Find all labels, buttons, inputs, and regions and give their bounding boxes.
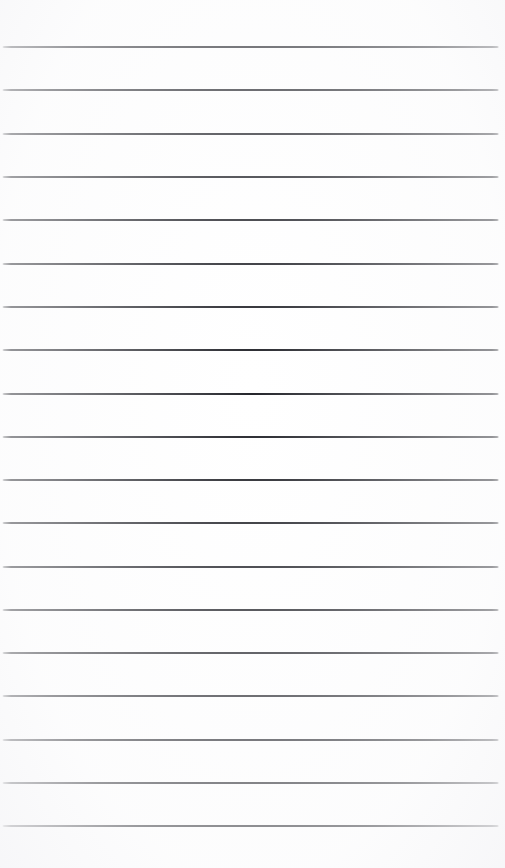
writing-line-12[interactable]	[2, 480, 499, 523]
writing-line-9[interactable]	[2, 350, 499, 394]
writing-line-6[interactable]	[2, 220, 499, 264]
writing-line-16[interactable]	[2, 653, 499, 696]
writing-line-11[interactable]	[2, 437, 499, 480]
writing-line-17[interactable]	[2, 696, 499, 740]
writing-line-7[interactable]	[2, 264, 499, 307]
writing-line-4[interactable]	[2, 134, 499, 177]
writing-line-19[interactable]	[2, 783, 499, 826]
writing-line-3[interactable]	[2, 90, 499, 134]
writing-line-13[interactable]	[2, 523, 499, 567]
writing-line-15[interactable]	[2, 610, 499, 653]
ruled-paper-page	[0, 0, 505, 868]
writing-line-2[interactable]	[2, 47, 499, 90]
writing-line-14[interactable]	[2, 567, 499, 610]
writing-line-10[interactable]	[2, 394, 499, 437]
writing-line-1[interactable]	[2, 4, 499, 47]
writing-line-5[interactable]	[2, 177, 499, 220]
writing-line-18[interactable]	[2, 740, 499, 783]
writing-line-8[interactable]	[2, 307, 499, 350]
